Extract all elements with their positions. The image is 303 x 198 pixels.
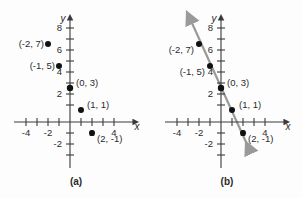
x-tick-label: -4 [22, 127, 30, 138]
point-label: (-1, 5) [30, 60, 55, 71]
data-point [240, 130, 246, 136]
point-label: (-2, 7) [19, 38, 44, 49]
data-point [67, 85, 73, 91]
data-point [229, 107, 235, 113]
data-point [207, 63, 213, 69]
x-axis-name: x [134, 121, 141, 132]
y-tick-label: -2 [54, 138, 62, 149]
y-tick-label: 2 [208, 88, 213, 99]
panel-a: -4 -2 2 4 8 6 4 2 -2 x y (-2, 7) (-1, 5)… [0, 0, 152, 198]
data-point [218, 85, 224, 91]
x-tick-label: -4 [173, 127, 181, 138]
data-point [45, 41, 51, 47]
y-tick-label: -2 [205, 138, 213, 149]
coordinate-plane-a: -4 -2 2 4 8 6 4 2 -2 x y (-2, 7) (-1, 5)… [0, 0, 152, 176]
panel-caption-b: (b) [151, 176, 303, 187]
x-tick-label: -2 [195, 127, 203, 138]
y-tick-label: 6 [57, 44, 62, 55]
data-point [196, 41, 202, 47]
y-axis-name: y [211, 13, 218, 24]
y-axis-name: y [60, 13, 67, 24]
data-point [56, 63, 62, 69]
y-tick-label: 2 [57, 88, 62, 99]
figure-container: -4 -2 2 4 8 6 4 2 -2 x y (-2, 7) (-1, 5)… [0, 0, 303, 198]
y-tick-label: 6 [208, 44, 213, 55]
coordinate-plane-b: -4 -2 2 4 8 6 4 2 -2 x y (-2, 7) (-1, 5)… [151, 0, 303, 176]
point-label: (-2, 7) [169, 44, 194, 55]
point-label: (0, 3) [76, 77, 98, 88]
data-point [89, 130, 95, 136]
point-label: (1, 1) [87, 99, 109, 110]
point-label: (-1, 5) [180, 66, 205, 77]
x-tick-label: -2 [44, 127, 52, 138]
point-label: (2, -1) [97, 133, 122, 144]
point-label: (1, 1) [239, 99, 261, 110]
point-label: (0, 3) [227, 77, 249, 88]
point-label: (2, -1) [248, 133, 273, 144]
panel-caption-a: (a) [0, 176, 152, 187]
panel-b: -4 -2 2 4 8 6 4 2 -2 x y (-2, 7) (-1, 5)… [151, 0, 303, 198]
x-axis-name: x [285, 121, 292, 132]
data-point [78, 107, 84, 113]
